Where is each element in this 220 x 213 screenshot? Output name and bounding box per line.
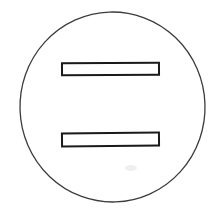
scan-smudge (125, 165, 137, 171)
top-bar (62, 63, 159, 76)
bottom-bar (62, 133, 159, 147)
canvas-background (0, 0, 220, 213)
equals-in-circle-figure (0, 0, 220, 213)
drawing-canvas: Equals sign inside a circle Hand-drawn l… (0, 0, 220, 213)
